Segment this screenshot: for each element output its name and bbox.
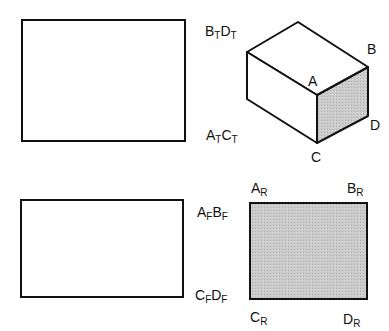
- label-cf-df: CFDF: [195, 288, 227, 305]
- vertex-label-d: D: [370, 118, 380, 132]
- right-view-rectangle: [250, 203, 367, 299]
- vertex-label-a: A: [308, 74, 317, 88]
- front-view-rectangle: [21, 200, 183, 297]
- corner-label-dr: DR: [343, 312, 360, 329]
- corner-label-br: BR: [347, 181, 364, 198]
- label-af-bf: AFBF: [197, 205, 228, 222]
- vertex-label-c: C: [311, 150, 321, 164]
- vertex-label-b: B: [367, 42, 376, 56]
- label-at-ct: ATCT: [206, 128, 238, 145]
- diagram-canvas: [0, 0, 389, 331]
- label-bt-dt: BTDT: [205, 24, 237, 41]
- top-view-rectangle: [22, 20, 185, 141]
- corner-label-cr: CR: [250, 310, 267, 327]
- corner-label-ar: AR: [251, 181, 268, 198]
